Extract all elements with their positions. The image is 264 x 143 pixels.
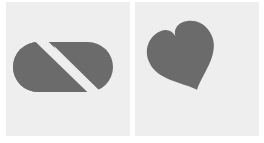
pill-capsule-icon (6, 2, 130, 136)
heart-icon (135, 2, 259, 136)
heart-panel (135, 2, 259, 136)
pill-panel (6, 2, 130, 136)
